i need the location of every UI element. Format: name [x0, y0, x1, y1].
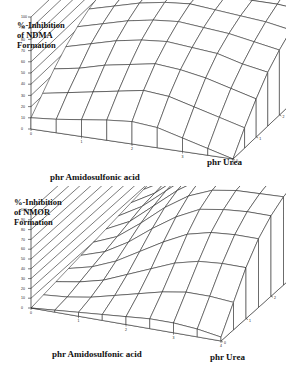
nmor-y-axis-label: phr Urea: [210, 352, 245, 362]
svg-text:70: 70: [21, 238, 25, 242]
ndma-z-axis-label: %-Inhibition of NDMA Formation: [17, 20, 65, 50]
svg-text:0: 0: [21, 306, 23, 310]
nmor-chart: 100908070605040302010001234012345 %-Inhi…: [0, 186, 286, 373]
svg-text:4: 4: [220, 344, 222, 348]
svg-text:2: 2: [131, 147, 133, 151]
svg-text:1: 1: [249, 319, 251, 323]
svg-text:0: 0: [224, 341, 226, 345]
svg-text:0: 0: [30, 311, 32, 315]
svg-text:100: 100: [21, 15, 27, 19]
svg-text:0: 0: [21, 127, 23, 131]
ndma-x-axis-label: phr Amidosulfonic acid: [50, 172, 140, 182]
nmor-x-axis-label: phr Amidosulfonic acid: [52, 349, 142, 359]
svg-text:2: 2: [125, 328, 127, 332]
ndma-y-axis-label: phr Urea: [207, 157, 242, 167]
svg-text:0: 0: [30, 132, 32, 136]
svg-text:30: 30: [21, 277, 25, 281]
svg-text:2: 2: [274, 296, 276, 300]
svg-text:10: 10: [21, 116, 25, 120]
svg-text:20: 20: [21, 287, 25, 291]
svg-text:1: 1: [78, 319, 80, 323]
svg-text:40: 40: [21, 267, 25, 271]
svg-text:60: 60: [21, 247, 25, 251]
svg-text:1: 1: [259, 137, 261, 141]
svg-text:50: 50: [21, 257, 25, 261]
svg-text:3: 3: [173, 336, 175, 340]
svg-text:20: 20: [21, 105, 25, 109]
ndma-chart: 100908070605040302010001234012345 %-Inhi…: [0, 0, 286, 186]
svg-text:3: 3: [182, 155, 184, 159]
svg-text:50: 50: [21, 71, 25, 75]
svg-text:60: 60: [21, 60, 25, 64]
nmor-z-axis-label: %-Inhibition of NMOR Formation: [14, 197, 62, 227]
svg-text:40: 40: [21, 82, 25, 86]
svg-text:10: 10: [21, 296, 25, 300]
svg-text:2: 2: [282, 115, 284, 119]
svg-text:30: 30: [21, 94, 25, 98]
svg-text:80: 80: [21, 228, 25, 232]
svg-text:1: 1: [81, 140, 83, 144]
